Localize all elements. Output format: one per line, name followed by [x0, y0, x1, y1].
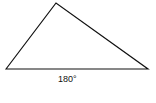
triangle-shape [6, 3, 148, 69]
base-angle-label: 180° [58, 74, 77, 84]
triangle-diagram [0, 0, 156, 103]
